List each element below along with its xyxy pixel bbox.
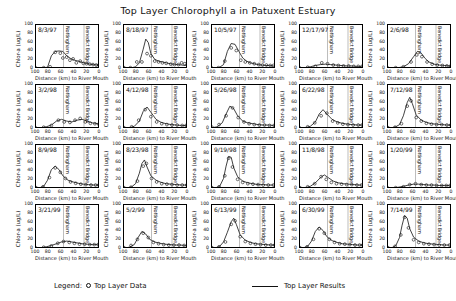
data-point-marker bbox=[59, 52, 62, 55]
x-tick-label: 100 bbox=[207, 189, 216, 194]
data-point-marker bbox=[42, 66, 45, 68]
station-marker-label: Nottingham bbox=[240, 206, 245, 234]
y-tick-label: 100 bbox=[24, 202, 33, 207]
x-tick-label: 80 bbox=[397, 249, 403, 254]
legend-title: Legend: bbox=[54, 282, 82, 290]
y-axis-label: Chlor-a (ug/L) bbox=[191, 205, 197, 253]
x-tick-label: 100 bbox=[383, 69, 392, 74]
figure-root: Top Layer Chlorophyll a in Patuxent Estu… bbox=[0, 0, 456, 301]
x-axis-label: Distance (km) to River Mouth bbox=[387, 255, 451, 261]
y-tick-label: 40 bbox=[291, 168, 297, 173]
chart-panel: 020406080100Chlor-a (ug/L)NottinghamBene… bbox=[18, 200, 102, 260]
data-point-marker bbox=[449, 124, 451, 127]
y-tick-label: 20 bbox=[203, 117, 209, 122]
data-point-marker bbox=[412, 238, 415, 241]
y-tick-label: 20 bbox=[203, 57, 209, 62]
station-marker-label: Benedict Bridge bbox=[437, 86, 442, 123]
x-tick-label: 20 bbox=[347, 69, 353, 74]
x-tick-label: 80 bbox=[45, 189, 51, 194]
x-tick-label: 80 bbox=[133, 69, 139, 74]
chart-panel: 020406080100Chlor-a (ug/L)NottinghamBene… bbox=[18, 140, 102, 200]
chart-panel: 020406080100Chlor-a (ug/L)NottinghamBene… bbox=[106, 80, 190, 140]
x-tick-label: 0 bbox=[362, 69, 365, 74]
x-tick-label: 60 bbox=[234, 69, 240, 74]
x-tick-label: 60 bbox=[146, 189, 152, 194]
x-tick-label: 20 bbox=[347, 249, 353, 254]
data-point-marker bbox=[449, 65, 451, 68]
station-marker-label: Nottingham bbox=[328, 86, 333, 114]
x-tick-label: 0 bbox=[274, 189, 277, 194]
y-tick-label: 60 bbox=[27, 39, 33, 44]
data-point-marker bbox=[36, 247, 37, 248]
chart-panel: 020406080100Chlor-a (ug/L)NottinghamBene… bbox=[370, 140, 454, 200]
y-axis-label: Chlor-a (ug/L) bbox=[367, 25, 373, 73]
chart-panel: 020406080100Chlor-a (ug/L)NottinghamBene… bbox=[18, 80, 102, 140]
x-tick-label: 100 bbox=[383, 249, 392, 254]
x-tick-label: 60 bbox=[234, 249, 240, 254]
y-tick-label: 60 bbox=[27, 219, 33, 224]
data-point-marker bbox=[230, 46, 233, 49]
y-tick-label: 60 bbox=[115, 99, 121, 104]
x-tick-label: 60 bbox=[234, 129, 240, 134]
panel-date-label: 1/20/99 bbox=[390, 146, 412, 153]
x-tick-label: 80 bbox=[309, 129, 315, 134]
panel-row: 020406080100Chlor-a (ug/L)NottinghamBene… bbox=[18, 20, 454, 80]
x-tick-label: 40 bbox=[334, 249, 340, 254]
y-axis-label: Chlor-a (ug/L) bbox=[103, 205, 109, 253]
x-tick-label: 60 bbox=[146, 69, 152, 74]
x-tick-label: 20 bbox=[347, 129, 353, 134]
x-tick-label: 20 bbox=[259, 129, 265, 134]
x-tick-label: 80 bbox=[133, 189, 139, 194]
data-point-marker bbox=[149, 115, 152, 118]
panel-date-label: 8/9/98 bbox=[38, 146, 57, 153]
y-axis-label: Chlor-a (ug/L) bbox=[367, 145, 373, 193]
legend-item-results-label: Top Layer Results bbox=[284, 282, 345, 290]
chart-panel: 020406080100Chlor-a (ug/L)NottinghamBene… bbox=[370, 200, 454, 260]
y-tick-label: 80 bbox=[291, 31, 297, 36]
panel-date-label: 5/26/98 bbox=[214, 86, 236, 93]
x-tick-label: 60 bbox=[58, 189, 64, 194]
panel-date-label: 8/18/97 bbox=[126, 26, 148, 33]
y-tick-label: 100 bbox=[288, 22, 297, 27]
y-tick-label: 40 bbox=[203, 108, 209, 113]
data-point-marker bbox=[320, 61, 323, 64]
chart-panel: 020406080100Chlor-a (ug/L)NottinghamBene… bbox=[194, 140, 278, 200]
data-point-marker bbox=[124, 246, 125, 248]
y-tick-label: 60 bbox=[203, 219, 209, 224]
y-tick-label: 60 bbox=[291, 219, 297, 224]
data-point-marker bbox=[97, 123, 99, 126]
data-point-marker bbox=[320, 114, 323, 117]
chart-panel: 020406080100Chlor-a (ug/L)NottinghamBene… bbox=[18, 20, 102, 80]
y-axis-label: Chlor-a (ug/L) bbox=[191, 85, 197, 133]
legend-item-data-label: Top Layer Data bbox=[94, 282, 147, 290]
data-point-marker bbox=[400, 122, 403, 125]
panel-date-label: 6/30/99 bbox=[302, 206, 324, 213]
x-tick-label: 100 bbox=[31, 249, 40, 254]
y-axis-label: Chlor-a (ug/L) bbox=[279, 205, 285, 253]
panel-date-label: 8/23/98 bbox=[126, 146, 148, 153]
station-marker-label: Benedict Bridge bbox=[261, 26, 266, 63]
panel-row: 020406080100Chlor-a (ug/L)NottinghamBene… bbox=[18, 80, 454, 140]
y-tick-label: 100 bbox=[200, 202, 209, 207]
y-tick-label: 40 bbox=[115, 48, 121, 53]
y-tick-label: 100 bbox=[200, 82, 209, 87]
chart-panel: 020406080100Chlor-a (ug/L)NottinghamBene… bbox=[282, 20, 366, 80]
station-marker-label: Nottingham bbox=[416, 146, 421, 174]
y-tick-label: 80 bbox=[379, 91, 385, 96]
x-tick-label: 0 bbox=[362, 249, 365, 254]
panel-date-label: 10/5/97 bbox=[214, 26, 236, 33]
x-tick-label: 0 bbox=[274, 69, 277, 74]
data-point-marker bbox=[335, 182, 338, 185]
x-tick-label: 80 bbox=[45, 69, 51, 74]
station-marker-label: Nottingham bbox=[416, 26, 421, 54]
y-axis-label: Chlor-a (ug/L) bbox=[103, 25, 109, 73]
y-tick-label: 80 bbox=[203, 91, 209, 96]
panel-row: 020406080100Chlor-a (ug/L)NottinghamBene… bbox=[18, 200, 454, 260]
x-tick-label: 0 bbox=[98, 189, 101, 194]
station-marker-label: Benedict Bridge bbox=[349, 146, 354, 183]
station-marker-label: Benedict Bridge bbox=[85, 26, 90, 63]
panel-date-label: 11/8/98 bbox=[302, 146, 324, 153]
panel-date-label: 3/21/99 bbox=[38, 206, 60, 213]
y-tick-label: 100 bbox=[200, 142, 209, 147]
x-tick-label: 40 bbox=[334, 189, 340, 194]
